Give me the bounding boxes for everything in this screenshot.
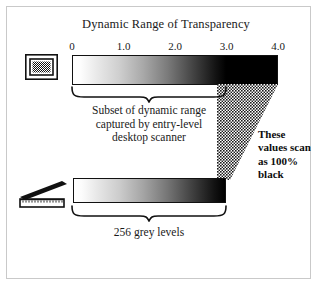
- figure-title: Dynamic Range of Transparency: [60, 17, 272, 32]
- figure-canvas: Dynamic Range of Transparency 0 1.0 2.0 …: [0, 0, 319, 287]
- transparency-range-bar: [72, 55, 278, 85]
- clipped-black-caption: These values scan as 100% black: [258, 128, 314, 182]
- transparency-slide-icon: [25, 54, 58, 80]
- transparency-gradient-segment: [73, 56, 226, 84]
- scanner-range-caption-line2: captured by entry-level: [62, 118, 236, 132]
- clipped-black-caption-line2: values scan: [258, 141, 314, 154]
- clipped-black-caption-line3: as 100%: [258, 155, 314, 168]
- flatbed-scanner-icon: [18, 180, 70, 208]
- scanner-range-caption: Subset of dynamic range captured by entr…: [62, 104, 236, 145]
- axis-tick-3: 3.0: [220, 40, 234, 52]
- axis-tick-1: 1.0: [117, 40, 131, 52]
- grey-levels-caption: 256 grey levels: [70, 226, 228, 238]
- axis-tick-4: 4.0: [271, 40, 285, 52]
- scanner-range-bar: [73, 178, 226, 203]
- scanner-range-caption-line3: desktop scanner: [62, 131, 236, 145]
- clipped-black-segment: [226, 56, 277, 84]
- brace-grey-levels: [70, 205, 228, 222]
- clipped-black-caption-line1: These: [258, 128, 314, 141]
- axis-tick-2: 2.0: [168, 40, 182, 52]
- scanner-range-caption-line1: Subset of dynamic range: [62, 104, 236, 118]
- clipped-black-caption-line4: black: [258, 168, 314, 181]
- axis-tick-labels: 0 1.0 2.0 3.0 4.0: [72, 40, 278, 54]
- axis-tick-0: 0: [69, 40, 75, 52]
- brace-scanner-range: [70, 86, 228, 103]
- scanner-gradient-segment: [74, 179, 225, 202]
